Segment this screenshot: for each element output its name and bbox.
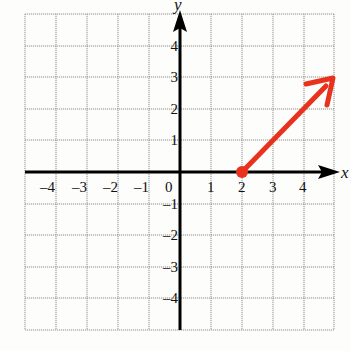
y-tick: 1	[171, 132, 179, 148]
x-tick: –2	[102, 179, 118, 195]
x-tick: 4	[299, 179, 307, 195]
x-tick: 3	[269, 179, 277, 195]
y-tick: –3	[162, 259, 178, 275]
y-axis	[173, 10, 187, 330]
y-tick: –1	[162, 196, 178, 212]
x-tick: 2	[238, 179, 246, 195]
coordinate-plane: x y –4 –3 –2 –1 0 1 2 3 4 4 3 2 1 –1 –2 …	[0, 0, 351, 351]
x-tick: 0	[165, 179, 173, 195]
x-tick: –4	[39, 179, 56, 195]
x-tick: 1	[207, 179, 215, 195]
y-tick: 4	[171, 38, 179, 54]
x-axis	[25, 165, 340, 179]
y-tick: –2	[162, 227, 178, 243]
x-axis-label: x	[340, 163, 349, 182]
x-tick-labels: –4 –3 –2 –1 0 1 2 3 4	[39, 179, 307, 195]
y-tick: 3	[171, 69, 179, 85]
ray-series	[236, 78, 333, 178]
x-tick: –3	[71, 179, 87, 195]
y-tick: –4	[162, 290, 179, 306]
y-axis-label: y	[172, 0, 182, 14]
y-tick: 2	[171, 101, 179, 117]
ray-start-point	[236, 166, 248, 178]
x-tick: –1	[133, 179, 149, 195]
